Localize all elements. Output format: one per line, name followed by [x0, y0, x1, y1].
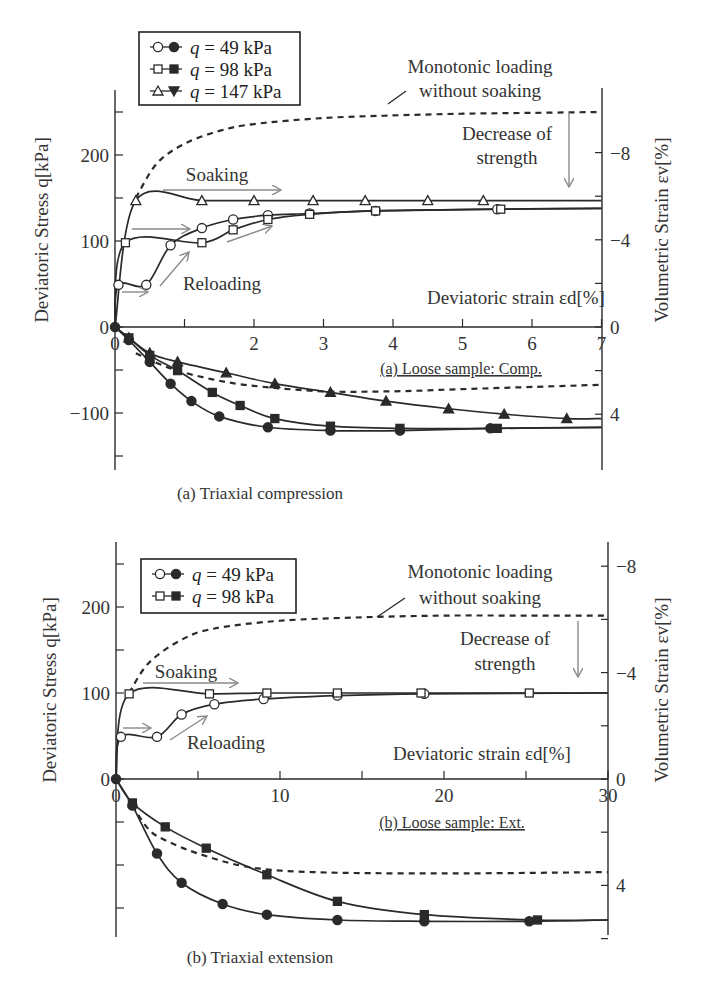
square-open-marker	[263, 689, 271, 697]
square-open-marker	[205, 690, 213, 698]
legend-filled-circle-icon	[169, 42, 178, 51]
panel-b-monotonic-label-line2: without soaking	[419, 587, 541, 608]
panel-b-decrease-label-line2: strength	[474, 653, 536, 674]
panel-b-reloading-label: Reloading	[187, 732, 266, 753]
square-open-marker	[333, 689, 341, 697]
square-open-marker	[229, 226, 237, 234]
monotonic-leader-line	[377, 598, 405, 617]
right-tick-label: −8	[616, 556, 636, 577]
monotonic-curve-volumetric	[132, 806, 608, 874]
panel-a-soaking-label: Soaking	[186, 164, 249, 185]
circle-filled-marker	[262, 910, 271, 919]
left-tick-label: 100	[81, 231, 110, 252]
legend-label: q = 49 kPa	[190, 37, 273, 58]
panel-a-left-axis-title: Deviatoric Stress q[kPa]	[31, 137, 52, 323]
series-curve-volumetric	[116, 779, 608, 921]
square-filled-marker	[263, 871, 271, 879]
square-open-marker	[306, 210, 314, 218]
circle-filled-marker	[152, 849, 161, 858]
square-open-marker	[264, 216, 272, 224]
square-filled-marker	[161, 823, 169, 831]
panel-a-caption: (a) Triaxial compression	[177, 484, 344, 503]
square-open-marker	[198, 239, 206, 247]
square-filled-marker	[271, 415, 279, 423]
circle-filled-marker	[333, 915, 342, 924]
legend-label: q = 98 kPa	[192, 586, 275, 607]
legend-open-square-icon	[154, 65, 162, 73]
circle-open-marker	[177, 710, 186, 719]
panel-b-markers	[111, 689, 541, 926]
panel-a-decrease-label-line1: Decrease of	[462, 123, 553, 144]
square-open-marker	[121, 239, 129, 247]
panel-a-axes: 2001000−100−8−4040234567	[70, 88, 631, 470]
circle-filled-marker	[218, 899, 227, 908]
panel-b-right-axis-title: Volumetric Strain εv[%]	[651, 598, 672, 783]
right-tick-label: 0	[610, 317, 620, 338]
left-tick-label: 200	[81, 145, 110, 166]
x-tick-label: 7	[597, 333, 607, 354]
circle-open-marker	[142, 280, 151, 289]
square-filled-marker	[326, 422, 334, 430]
circle-filled-marker	[177, 878, 186, 887]
origin-marker	[111, 774, 120, 783]
circle-open-marker	[210, 700, 219, 709]
series-curve-stress	[115, 208, 602, 327]
x-tick-label: 3	[319, 333, 329, 354]
series-curve-stress	[115, 208, 602, 327]
panel-a-legend: q = 49 kPaq = 98 kPaq = 147 kPa	[139, 32, 300, 105]
left-tick-label: 0	[101, 769, 111, 790]
left-tick-label: 100	[82, 683, 111, 704]
square-filled-marker	[420, 911, 428, 919]
legend-open-square-icon	[156, 592, 164, 600]
panel-b-x-axis-title: Deviatoric strain εd[%]	[393, 743, 571, 764]
series-curve-volumetric	[116, 779, 608, 920]
square-filled-marker	[174, 367, 182, 375]
square-filled-marker	[202, 844, 210, 852]
right-tick-label: 4	[610, 404, 620, 425]
x-tick-label: 20	[435, 785, 454, 806]
square-open-marker	[497, 205, 505, 213]
x-tick-label: 4	[388, 333, 398, 354]
circle-filled-marker	[525, 917, 534, 926]
panel-a-markers	[110, 196, 571, 436]
x-tick-label: 6	[527, 333, 537, 354]
panel-b-monotonic-label-line1: Monotonic loading	[407, 561, 553, 582]
x-tick-label: 0	[111, 785, 121, 806]
monotonic-leader-line	[388, 91, 406, 104]
circle-open-marker	[114, 280, 123, 289]
circle-open-marker	[166, 241, 175, 250]
circle-open-marker	[152, 732, 161, 741]
circle-open-marker	[197, 224, 206, 233]
panel-b-decrease-label-line1: Decrease of	[460, 628, 551, 649]
legend-filled-square-icon	[172, 592, 180, 600]
right-tick-label: −4	[610, 230, 631, 251]
panel-b-triaxial-extension: 2001000−8−4040102030 Deviatoric Stress q…	[39, 542, 672, 967]
x-tick-label: 5	[458, 333, 468, 354]
legend-open-circle-icon	[153, 42, 162, 51]
square-filled-marker	[493, 424, 501, 432]
square-open-marker	[525, 689, 533, 697]
square-filled-marker	[236, 401, 244, 409]
panel-a-monotonic-label-line2: without soaking	[419, 80, 541, 101]
x-tick-label: 10	[271, 785, 290, 806]
x-tick-label: 2	[249, 333, 259, 354]
panel-b-left-axis-title: Deviatoric Stress q[kPa]	[39, 597, 60, 783]
panel-a-triaxial-compression: 2001000−100−8−4040234567 Deviatoric Stre…	[31, 32, 672, 503]
circle-filled-marker	[166, 379, 175, 388]
square-open-marker	[125, 690, 133, 698]
panel-b-caption: (b) Triaxial extension	[187, 948, 334, 967]
figure-canvas: 2001000−100−8−4040234567 Deviatoric Stre…	[0, 0, 707, 999]
legend-label: q = 49 kPa	[192, 564, 275, 585]
panel-b-soaking-label: Soaking	[155, 661, 218, 682]
square-filled-marker	[208, 388, 216, 396]
panel-a-decrease-label-line2: strength	[476, 147, 538, 168]
legend-label: q = 98 kPa	[190, 59, 273, 80]
square-filled-marker	[396, 424, 404, 432]
square-filled-marker	[533, 916, 541, 924]
panel-a-subtitle: (a) Loose sample: Comp.	[380, 360, 542, 378]
square-filled-marker	[128, 799, 136, 807]
panel-b-legend: q = 49 kPaq = 98 kPa	[141, 559, 296, 613]
circle-filled-marker	[215, 412, 224, 421]
square-open-marker	[417, 689, 425, 697]
panel-a-monotonic-label-line1: Monotonic loading	[407, 56, 553, 77]
